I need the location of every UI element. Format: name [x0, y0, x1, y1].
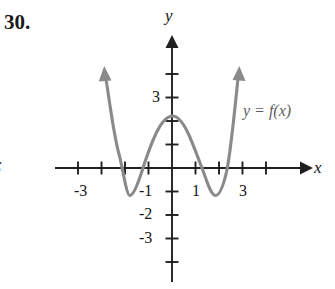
curve-equation-label: y = f(x): [243, 102, 291, 120]
figure-canvas: 30. ;: [0, 0, 335, 289]
y-tick-label-neg3: -3: [139, 229, 152, 247]
x-axis-label: x: [314, 158, 322, 178]
graph-plot: [0, 0, 335, 289]
curve-right-arrowhead: [233, 66, 246, 81]
y-axis-label: y: [165, 6, 173, 26]
x-tick-label-1: 1: [192, 182, 200, 200]
y-axis-arrowhead: [166, 35, 179, 48]
y-tick-label-neg2: -2: [139, 205, 152, 223]
x-axis-arrowhead: [300, 162, 313, 175]
x-tick-label-3: 3: [239, 182, 247, 200]
y-tick-label-3: 3: [152, 88, 160, 106]
curve-left-arrowhead: [99, 66, 112, 82]
y-tick-label-neg1: -1: [139, 182, 152, 200]
x-tick-label-neg3: -3: [74, 182, 87, 200]
